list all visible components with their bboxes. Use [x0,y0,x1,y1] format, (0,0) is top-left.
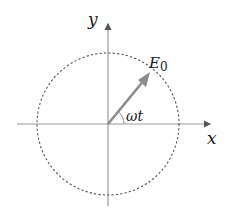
y-axis-label: y [87,9,98,29]
angle-arc [118,112,124,124]
vector-label: E0 [148,54,168,74]
phasor-diagram: y x E0 ωt [0,0,230,218]
angle-label: ωt [126,108,143,124]
x-axis-label: x [207,128,217,148]
